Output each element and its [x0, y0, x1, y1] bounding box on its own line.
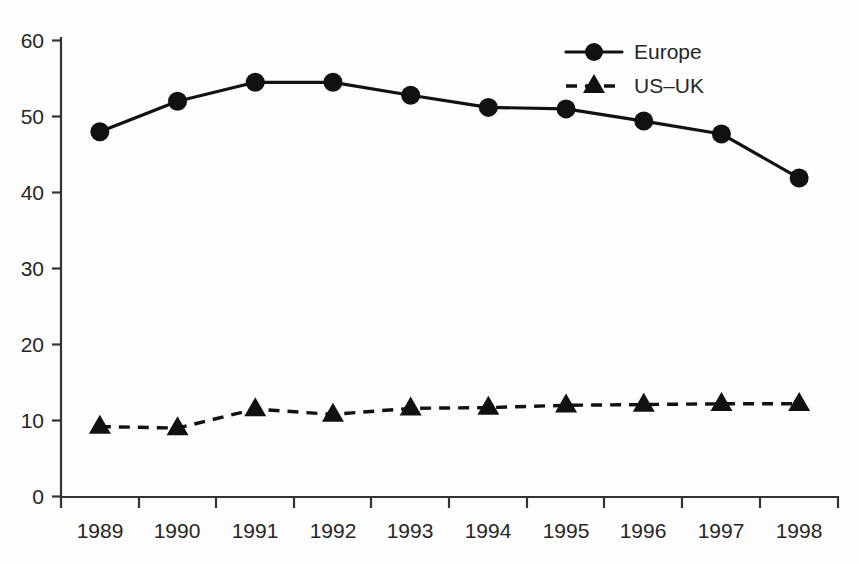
x-tick-label-1997: 1997 [698, 519, 745, 542]
x-tick-label-1989: 1989 [77, 519, 124, 542]
y-tick-label-30: 30 [21, 257, 44, 280]
data-point-triangle-marker[interactable] [244, 397, 266, 416]
data-point-triangle-marker[interactable] [555, 394, 577, 413]
y-tick-label-0: 0 [32, 485, 44, 508]
y-tick-label-10: 10 [21, 409, 44, 432]
x-tick-marks [61, 497, 838, 508]
data-point-circle-marker[interactable] [168, 92, 187, 111]
data-point-circle-marker[interactable] [790, 169, 809, 188]
data-point-triangle-marker[interactable] [788, 392, 810, 411]
y-tick-labels: 60 50 40 30 20 10 0 [21, 29, 44, 508]
data-point-triangle-marker[interactable] [89, 415, 111, 434]
legend-label-europe: Europe [634, 40, 702, 63]
y-tick-label-60: 60 [21, 29, 44, 52]
data-point-circle-marker[interactable] [557, 99, 576, 118]
y-tick-marks [52, 41, 61, 497]
legend-label-us-uk: US–UK [634, 74, 704, 97]
data-point-circle-marker[interactable] [401, 86, 420, 105]
data-series-layer [89, 73, 810, 436]
data-point-triangle-marker[interactable] [400, 397, 422, 416]
data-point-circle-marker[interactable] [712, 124, 731, 143]
y-tick-label-40: 40 [21, 181, 44, 204]
legend-triangle-marker-icon [583, 74, 605, 93]
x-tick-label-1995: 1995 [543, 519, 590, 542]
data-point-triangle-marker[interactable] [633, 393, 655, 412]
x-tick-label-1991: 1991 [232, 519, 279, 542]
data-point-triangle-marker[interactable] [710, 392, 732, 411]
x-tick-label-1992: 1992 [310, 519, 357, 542]
x-tick-label-1996: 1996 [620, 519, 667, 542]
data-point-circle-marker[interactable] [246, 73, 265, 92]
chart-legend: Europe US–UK [566, 40, 704, 97]
data-point-circle-marker[interactable] [634, 112, 653, 131]
series-us-uk [89, 392, 810, 435]
x-tick-label-1990: 1990 [154, 519, 201, 542]
data-point-circle-marker[interactable] [323, 73, 342, 92]
data-point-circle-marker[interactable] [90, 122, 109, 141]
legend-entry-europe[interactable]: Europe [566, 40, 702, 63]
x-tick-label-1998: 1998 [776, 519, 823, 542]
legend-circle-marker-icon [585, 43, 603, 61]
series-line [100, 82, 799, 178]
legend-entry-us-uk[interactable]: US–UK [566, 74, 704, 97]
x-tick-label-1993: 1993 [387, 519, 434, 542]
data-point-triangle-marker[interactable] [322, 403, 344, 422]
data-point-triangle-marker[interactable] [477, 396, 499, 415]
line-chart: 60 50 40 30 20 10 0 1989 1990 1991 [0, 0, 859, 564]
chart-canvas: 60 50 40 30 20 10 0 1989 1990 1991 [0, 0, 859, 564]
y-tick-label-20: 20 [21, 333, 44, 356]
data-point-circle-marker[interactable] [479, 98, 498, 117]
series-line [100, 404, 799, 428]
x-tick-labels: 1989 1990 1991 1992 1993 1994 1995 1996 … [77, 519, 823, 542]
x-tick-label-1994: 1994 [465, 519, 512, 542]
y-tick-label-50: 50 [21, 105, 44, 128]
